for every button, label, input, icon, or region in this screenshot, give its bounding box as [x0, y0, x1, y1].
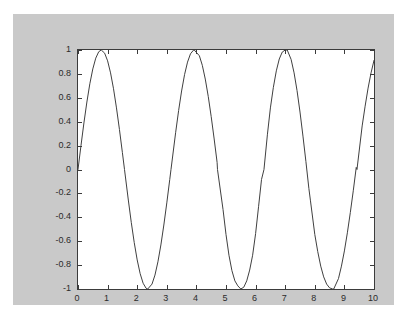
- y-axis-tick-label: 1: [13, 45, 71, 54]
- y-axis-tick-label: -0.8: [13, 260, 71, 269]
- x-axis-tick-label: 3: [163, 294, 168, 303]
- figure-background: -1-0.8-0.6-0.4-0.200.20.40.60.81 0123456…: [13, 14, 394, 305]
- y-axis-tick-label: 0.2: [13, 140, 71, 149]
- page-canvas: -1-0.8-0.6-0.4-0.200.20.40.60.81 0123456…: [0, 0, 406, 320]
- y-axis-tick-label: 0.6: [13, 92, 71, 101]
- x-axis-tick-label: 1: [104, 294, 109, 303]
- x-axis-tick-label: 5: [222, 294, 227, 303]
- tick-marks-group: [78, 50, 374, 289]
- y-axis-tick-label: 0.8: [13, 68, 71, 77]
- y-axis-tick-label: -1: [13, 284, 71, 293]
- x-axis-tick-label: 0: [74, 294, 79, 303]
- x-axis-tick-label: 4: [193, 294, 198, 303]
- x-axis-tick-label: 2: [134, 294, 139, 303]
- x-axis-tick-label: 10: [368, 294, 378, 303]
- x-axis-tick-label: 8: [311, 294, 316, 303]
- y-axis-tick-label: 0.4: [13, 116, 71, 125]
- y-axis-tick-label: -0.6: [13, 236, 71, 245]
- y-axis-tick-label: -0.4: [13, 212, 71, 221]
- data-series-line: [78, 50, 374, 289]
- y-axis-tick-label: 0: [13, 164, 71, 173]
- plot-axes-box: [77, 49, 375, 290]
- x-axis-tick-label: 9: [341, 294, 346, 303]
- y-axis-tick-label: -0.2: [13, 188, 71, 197]
- x-axis-tick-label: 6: [252, 294, 257, 303]
- plot-area-svg: [78, 50, 374, 289]
- x-axis-tick-label: 7: [282, 294, 287, 303]
